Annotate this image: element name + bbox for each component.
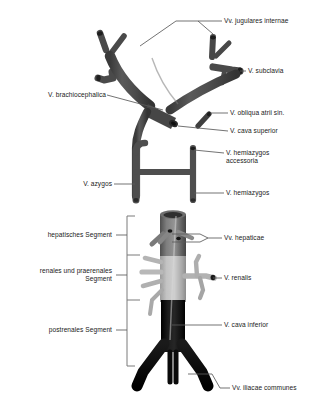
vena-cava-diagram (0, 0, 312, 410)
vessel-jugularis-interna-left (97, 31, 124, 52)
label-brachiocephalica: V. brachiocephalica (18, 91, 106, 99)
leader-jugulares-left (140, 21, 222, 46)
vessel-highlight (152, 58, 178, 104)
label-hemiazygos-accessoria-line2: accessoria (226, 157, 258, 165)
label-segment-renal-line1: renales und praerenales (12, 267, 112, 275)
label-segment-hepatic: hepatisches Segment (18, 231, 112, 239)
label-obliqua-atrii-sin: V. obliqua atrii sin. (230, 109, 284, 117)
vessel-azygos-end (133, 198, 138, 202)
leader-jugulares-right (198, 21, 213, 34)
vessel-lumbales-left (142, 258, 162, 314)
segment-bracket (127, 216, 140, 366)
label-azygos: V. azygos (40, 180, 112, 188)
vessel-azygos-arch (136, 143, 145, 152)
vessel-subclavia-left (96, 72, 113, 81)
label-hemiazygos-accessoria-line1: V. hemiazygos (226, 149, 269, 157)
vessel-obliqua-atrii-sin (198, 111, 212, 126)
label-cava-inferior: V. cava inferior (224, 321, 268, 329)
label-subclavia: V. subclavia (248, 67, 284, 75)
label-renalis: V. renalis (224, 274, 251, 282)
label-segment-renal-line2: Segment (12, 275, 112, 283)
vessel-brachiocephalica-right (110, 56, 150, 106)
label-cava-superior: V. cava superior (230, 127, 278, 135)
vessel-hemiazygos-end (191, 198, 196, 202)
label-jugulares-internae: Vv. jugulares internae (224, 17, 288, 25)
label-segment-postrenal: postrenales Segment (18, 326, 112, 334)
cava-lumen (163, 212, 182, 218)
leader-cava-superior (178, 126, 228, 131)
vessel-brachiocephalica-left (170, 74, 236, 110)
leader-hemiazygos-accessoria (194, 150, 224, 153)
azygos-system-group (133, 143, 195, 202)
label-iliacae-communes: Vv. iliacae communes (232, 384, 297, 392)
label-hemiazygos: V. hemiazygos (226, 189, 269, 197)
label-hepaticae: Vv. hepaticae (224, 234, 264, 242)
vessel-jugularis-interna-right (210, 36, 229, 58)
inferior-vena-cava-group (137, 210, 215, 386)
vessel-renalis-right (185, 256, 215, 298)
